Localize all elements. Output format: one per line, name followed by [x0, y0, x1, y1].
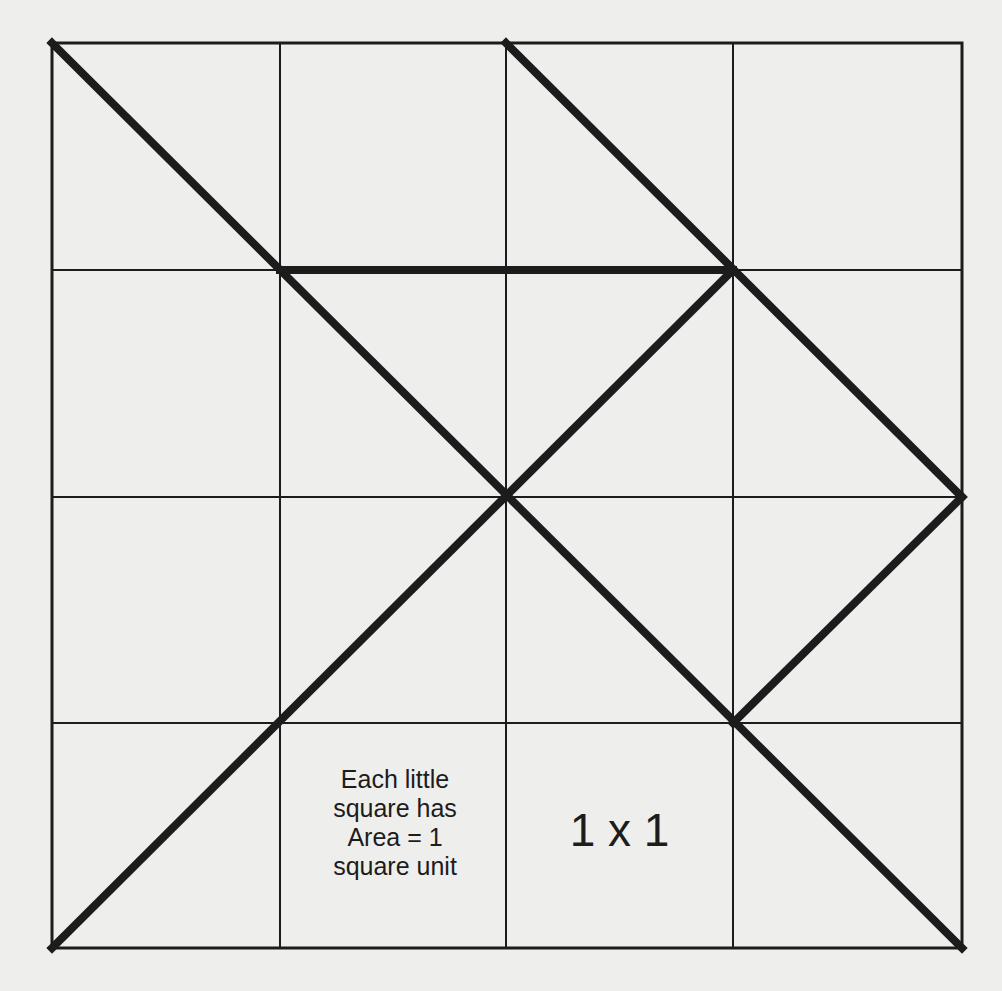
tangram-grid-diagram [0, 0, 1002, 991]
cell-area-note-line: Area = 1 [290, 823, 500, 852]
unit-size-label: 1 x 1 [506, 805, 733, 855]
lower-right-diagonal-line [733, 497, 962, 723]
cell-area-note: Each little square has Area = 1 square u… [290, 765, 500, 881]
cell-area-note-line: Each little [290, 765, 500, 794]
cell-area-note-line: square has [290, 794, 500, 823]
cell-area-note-line: square unit [290, 852, 500, 881]
